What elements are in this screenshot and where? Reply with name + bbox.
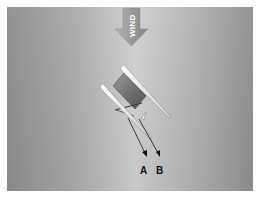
vector-b-arrow-icon [139, 119, 160, 157]
wind-label: WIND [128, 14, 137, 37]
wind-arrow-icon: WIND [115, 8, 148, 46]
vector-a-label: A [140, 165, 147, 176]
sailing-diagram: WIND A B [0, 0, 258, 199]
vector-b-label: B [156, 165, 163, 176]
catamaran-icon [100, 65, 171, 139]
